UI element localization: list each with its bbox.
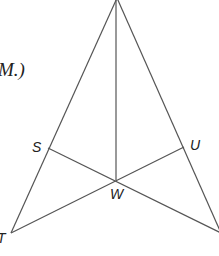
label-S: S	[32, 140, 41, 154]
label-T: T	[0, 231, 6, 245]
label-W: W	[110, 187, 123, 201]
segment-T-U	[11, 147, 184, 233]
triangle-figure	[0, 0, 219, 256]
side-apex-right	[117, 0, 219, 233]
label-U: U	[190, 138, 200, 152]
side-apex-T	[11, 0, 117, 233]
segment-S-right-vertex	[48, 148, 219, 233]
